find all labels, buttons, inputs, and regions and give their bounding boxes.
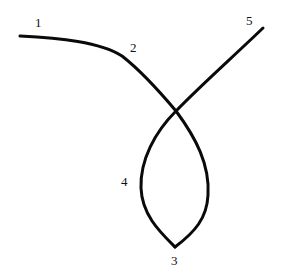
loop-curve-diagram: 1 2 3 4 5 <box>0 0 285 278</box>
curve-segment-1-to-3 <box>20 36 208 247</box>
point-label-3: 3 <box>171 253 178 268</box>
point-label-2: 2 <box>130 40 137 55</box>
point-label-5: 5 <box>246 13 253 28</box>
point-label-1: 1 <box>35 15 42 30</box>
point-label-4: 4 <box>121 174 128 189</box>
curve-segment-3-to-5 <box>141 28 263 247</box>
